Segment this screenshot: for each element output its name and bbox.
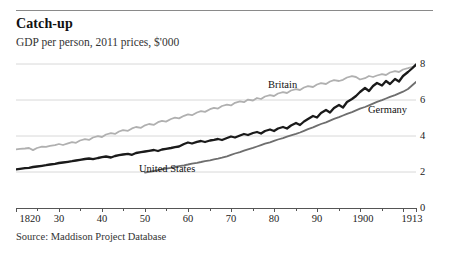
chart-page: Catch-up GDP per person, 2011 prices, $'… bbox=[0, 0, 449, 254]
y-tick-label: 2 bbox=[420, 166, 425, 177]
y-tick-label: 4 bbox=[420, 130, 425, 141]
x-tick-label: 1820 bbox=[20, 213, 41, 224]
y-tick-label: 6 bbox=[420, 94, 425, 105]
x-tick-label: 1913 bbox=[402, 213, 423, 224]
x-tick-minor bbox=[166, 208, 167, 211]
x-tick-label: 40 bbox=[97, 213, 108, 224]
x-tick-major bbox=[188, 208, 189, 212]
series-lines bbox=[16, 65, 416, 173]
top-rule bbox=[16, 10, 433, 11]
y-tick-label: 0 bbox=[420, 202, 425, 213]
source-note: Source: Maddison Project Database bbox=[16, 231, 166, 242]
x-tick-minor bbox=[382, 208, 383, 211]
x-tick-label: 70 bbox=[226, 213, 237, 224]
x-tick-label: 60 bbox=[183, 213, 194, 224]
x-axis-labels: 1820 30 40 50 60 70 80 90 1900 1913 bbox=[0, 213, 449, 227]
y-axis-labels: 8 6 4 2 0 bbox=[420, 58, 448, 210]
y-tick-label: 8 bbox=[420, 58, 425, 69]
chart-subtitle: GDP per person, 2011 prices, $'000 bbox=[16, 36, 179, 48]
x-tick-label: 50 bbox=[140, 213, 151, 224]
series-label-britain: Britain bbox=[268, 79, 297, 90]
x-tick-minor bbox=[210, 208, 211, 211]
x-tick-major bbox=[360, 208, 361, 212]
x-tick-label: 30 bbox=[54, 213, 65, 224]
x-tick-minor bbox=[80, 208, 81, 211]
x-tick-major bbox=[59, 208, 60, 212]
series-line-britain bbox=[16, 66, 416, 150]
x-tick-minor bbox=[253, 208, 254, 211]
x-tick-label: 80 bbox=[269, 213, 280, 224]
x-tick-minor bbox=[37, 208, 38, 211]
x-tick-major bbox=[416, 208, 417, 212]
x-tick-major bbox=[317, 208, 318, 212]
x-tick-major bbox=[231, 208, 232, 212]
page-title: Catch-up bbox=[16, 16, 73, 32]
x-tick-major bbox=[102, 208, 103, 212]
plot-area bbox=[16, 58, 416, 208]
x-tick-label: 1900 bbox=[353, 213, 374, 224]
x-tick-major bbox=[274, 208, 275, 212]
x-tick-major bbox=[403, 208, 404, 212]
series-label-germany: Germany bbox=[368, 104, 407, 115]
chart-svg bbox=[16, 58, 416, 208]
x-tick-minor bbox=[339, 208, 340, 211]
series-label-united-states: United States bbox=[139, 163, 195, 174]
x-tick-major bbox=[16, 208, 17, 212]
x-tick-minor bbox=[123, 208, 124, 211]
x-tick-label: 90 bbox=[312, 213, 323, 224]
x-tick-major bbox=[145, 208, 146, 212]
gridlines bbox=[16, 64, 416, 172]
series-line-united-states bbox=[16, 65, 416, 170]
x-tick-minor bbox=[296, 208, 297, 211]
